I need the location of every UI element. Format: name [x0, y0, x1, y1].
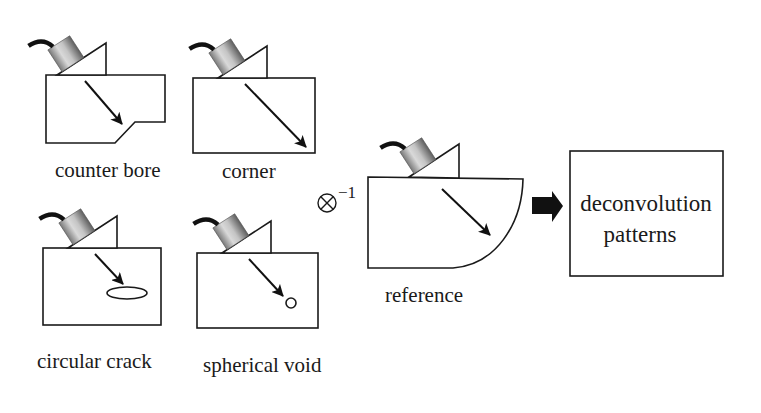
panel-circular-crack: circular crack	[37, 197, 161, 373]
panel-reference: reference	[368, 126, 523, 307]
circled-times-icon	[318, 194, 336, 212]
specimen-corner	[193, 78, 315, 153]
panel-label: spherical void	[203, 353, 322, 377]
reference-label: reference	[385, 283, 463, 307]
output-label-line2: patterns	[604, 222, 677, 247]
block-arrow-icon	[532, 191, 563, 222]
output-label-line1: deconvolution	[580, 191, 712, 216]
inverse-exponent: −1	[338, 183, 356, 202]
specimen-circular-crack	[43, 248, 161, 325]
deconvolution-operator: −1	[318, 183, 356, 212]
panel-corner: corner	[190, 27, 315, 183]
panel-label: circular crack	[37, 349, 152, 373]
diagram-canvas: counter bore corner circular crack spher…	[0, 0, 761, 413]
panel-label: corner	[222, 159, 276, 183]
panel-label: counter bore	[55, 158, 161, 182]
specimen-reference	[368, 177, 523, 268]
specimen-spherical-void	[197, 253, 318, 328]
specimen-counter-bore	[46, 75, 165, 143]
panel-counter-bore: counter bore	[29, 24, 165, 182]
panel-spherical-void: spherical void	[194, 202, 322, 377]
output-box: deconvolution patterns	[570, 151, 723, 276]
